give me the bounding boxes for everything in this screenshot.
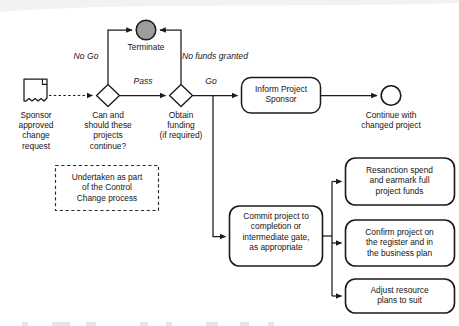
- end-event-label: Continue with changed project: [345, 110, 437, 130]
- gateway-continue-shape: [97, 85, 120, 107]
- gateway-funding-shape: [170, 85, 193, 107]
- commit-project-label: Commit project to completion or intermed…: [231, 211, 321, 252]
- flowchart-vector-layer: [0, 0, 459, 326]
- resanction-spend-label: Resanction spend and earmark full projec…: [347, 165, 452, 196]
- edge-no-funds-to-terminate: [160, 30, 181, 84]
- edge-label-no-funds-granted: No funds granted: [182, 51, 268, 61]
- terminate-label: Terminate: [114, 42, 178, 52]
- cropped-caption-remnant: [22, 322, 274, 326]
- edge-label-go: Go: [199, 76, 223, 86]
- flowchart-canvas: Sponsor approved change request Can and …: [0, 0, 459, 326]
- annotation-control-change-label: Undertaken as part of the Control Change…: [57, 172, 157, 203]
- edge-label-pass: Pass: [126, 76, 160, 86]
- end-event-shape: [381, 86, 401, 106]
- confirm-register-label: Confirm project on the register and in t…: [347, 227, 452, 258]
- adjust-resource-label: Adjust resource plans to suit: [347, 285, 452, 306]
- terminate-shape: [136, 20, 156, 40]
- scan-smudge: [0, 0, 459, 12]
- gateway-funding-label: Obtain funding (if required): [146, 110, 216, 141]
- gateway-continue-label: Can and should these projects continue?: [70, 110, 146, 151]
- edge-label-no-go: No Go: [66, 51, 106, 61]
- inform-sponsor-label: Inform Project Sponsor: [243, 84, 319, 105]
- start-document-label: Sponsor approved change request: [2, 110, 70, 151]
- start-document-shape: [24, 79, 47, 101]
